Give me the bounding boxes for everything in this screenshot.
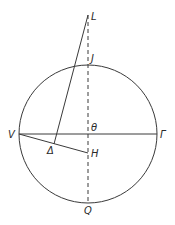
label-j: J	[89, 53, 94, 64]
label-gamma: Γ	[160, 129, 167, 140]
segment-l-delta	[54, 15, 88, 144]
label-h: H	[91, 148, 99, 159]
label-theta: θ	[91, 122, 97, 133]
label-delta: Δ	[46, 145, 54, 156]
label-v: V	[8, 129, 16, 140]
label-l: L	[91, 11, 97, 22]
label-q: Q	[84, 205, 92, 216]
geometry-diagram: L J V Γ θ Δ H Q	[0, 0, 175, 225]
